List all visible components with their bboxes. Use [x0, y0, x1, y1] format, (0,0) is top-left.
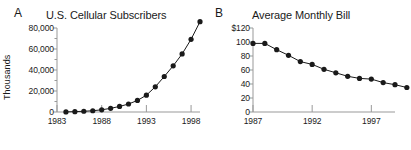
data-point-marker [99, 107, 104, 112]
data-point-marker [404, 85, 409, 90]
data-point-marker [298, 59, 303, 64]
data-point-marker [63, 109, 68, 114]
data-point-marker [345, 74, 350, 79]
panel-b-y-tick-label: 80 [241, 51, 250, 61]
panel-a-x-tick-label: 1998 [182, 116, 201, 126]
panel-b-y-tick-label: 100 [236, 37, 250, 47]
panel-b-x-tick-label: 1987 [244, 116, 263, 126]
panel-a-x-tick-label: 1993 [137, 116, 156, 126]
data-point-marker [321, 67, 326, 72]
panel-a-y-axis-label: Thousands [2, 55, 12, 100]
panel-b-x-tick-label: 1992 [303, 116, 322, 126]
panel-a-y-tick-label: 20,000 [29, 86, 54, 96]
panel-b-y-tick-label: $120 [231, 23, 250, 33]
data-point-marker [135, 98, 140, 103]
panel-b-y-tick-label: 60 [241, 65, 250, 75]
data-point-marker [369, 77, 374, 82]
panel-b-title: Average Monthly Bill [252, 9, 350, 21]
data-point-marker [153, 84, 158, 89]
panel-a-y-tick-label: 40,000 [29, 65, 54, 75]
panel-a: A U.S. Cellular Subscribers Thousands 02… [0, 0, 206, 150]
data-point-marker [274, 47, 279, 52]
panel-a-x-tick-label: 1983 [48, 116, 67, 126]
data-point-marker [286, 53, 291, 58]
data-point-marker [188, 37, 193, 42]
data-point-marker [171, 63, 176, 68]
panel-a-title: U.S. Cellular Subscribers [46, 9, 166, 21]
panel-b: B Average Monthly Bill 020406080100$1201… [205, 0, 411, 150]
data-point-marker [180, 51, 185, 56]
data-point-marker [126, 101, 131, 106]
data-point-marker [108, 106, 113, 111]
data-point-marker [333, 70, 338, 75]
data-point-marker [197, 19, 202, 24]
panel-b-x-tick-label: 1997 [362, 116, 381, 126]
data-point-marker [162, 74, 167, 79]
data-point-marker [381, 80, 386, 85]
panel-b-y-tick-label: 20 [241, 93, 250, 103]
figure-container: A U.S. Cellular Subscribers Thousands 02… [0, 0, 411, 150]
data-point-marker [81, 109, 86, 114]
panel-a-svg [57, 28, 200, 112]
data-point-marker [117, 104, 122, 109]
panel-b-svg [253, 28, 395, 112]
panel-b-plot-area: 020406080100$120198719921997 [253, 28, 395, 112]
panel-b-letter: B [215, 6, 223, 20]
data-point-marker [310, 62, 315, 67]
panel-a-y-tick-label: 80,000 [29, 23, 54, 33]
panel-a-y-tick-label: 60,000 [29, 44, 54, 54]
data-point-marker [250, 41, 255, 46]
data-point-marker [262, 41, 267, 46]
panel-a-letter: A [14, 6, 22, 20]
data-point-marker [144, 93, 149, 98]
panel-a-data-line [66, 22, 200, 112]
data-point-marker [72, 109, 77, 114]
panel-a-plot-area: 020,00040,00060,00080,000198319881993199… [57, 28, 200, 112]
data-point-marker [357, 76, 362, 81]
data-point-marker [392, 82, 397, 87]
panel-a-x-tick-label: 1988 [92, 116, 111, 126]
data-point-marker [90, 108, 95, 113]
panel-b-y-tick-label: 40 [241, 79, 250, 89]
